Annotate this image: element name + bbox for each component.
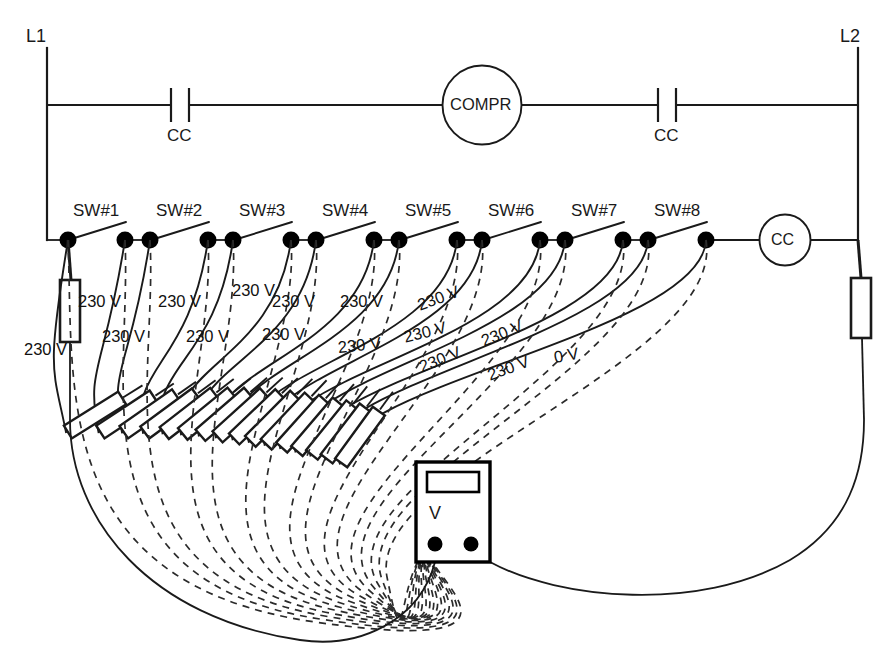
cc-contact-left-label: CC <box>167 126 192 146</box>
voltage-label-4: 230 V <box>158 292 201 311</box>
probe-wire-tail-13 <box>340 384 354 401</box>
voltage-label-6: 230 V <box>232 281 275 300</box>
voltage-label-8: 230 V <box>272 292 315 311</box>
switch-label-sw5: SW#5 <box>405 201 451 221</box>
switch-label-sw2: SW#2 <box>156 201 202 221</box>
voltmeter-terminal-left[interactable] <box>428 537 443 552</box>
voltmeter-terminal-right[interactable] <box>464 537 479 552</box>
right-return-conductor <box>490 420 864 595</box>
switch-label-sw1: SW#1 <box>73 201 119 221</box>
rail-label-l2: L2 <box>840 26 860 47</box>
right-load-branch <box>851 240 871 420</box>
voltage-label-9: 230 V <box>340 292 383 311</box>
voltage-label-1: 230 V <box>24 340 67 359</box>
rail-label-l1: L1 <box>26 26 46 47</box>
voltage-label-5: 230 V <box>186 327 229 346</box>
voltmeter-display <box>427 472 479 492</box>
voltage-label-3: 230 V <box>102 327 145 346</box>
switch-label-sw6: SW#6 <box>488 201 534 221</box>
left-return-conductor <box>70 420 435 642</box>
switch-label-sw8: SW#8 <box>654 201 700 221</box>
switch-label-sw3: SW#3 <box>239 201 285 221</box>
cc-coil-label: CC <box>771 231 794 249</box>
compressor-label: COMPR <box>450 95 511 114</box>
cc-contact-right-label: CC <box>654 126 679 146</box>
switch-label-sw7: SW#7 <box>571 201 617 221</box>
voltmeter[interactable] <box>416 462 490 562</box>
voltage-label-7: 230 V <box>262 325 305 344</box>
cc-contact-right[interactable] <box>658 88 676 122</box>
probe-wire-tail-1 <box>124 385 143 397</box>
voltmeter-label: V <box>429 503 441 524</box>
cc-contact-left[interactable] <box>171 88 189 122</box>
diagram-canvas: L1 L2 CC CC COMPR CC V SW#1 SW#2 SW#3 SW… <box>0 0 896 665</box>
switch-label-sw4: SW#4 <box>322 201 368 221</box>
right-load-resistor <box>851 278 871 338</box>
voltage-label-2: 230 V <box>78 292 121 311</box>
test-lead-14 <box>371 240 623 619</box>
